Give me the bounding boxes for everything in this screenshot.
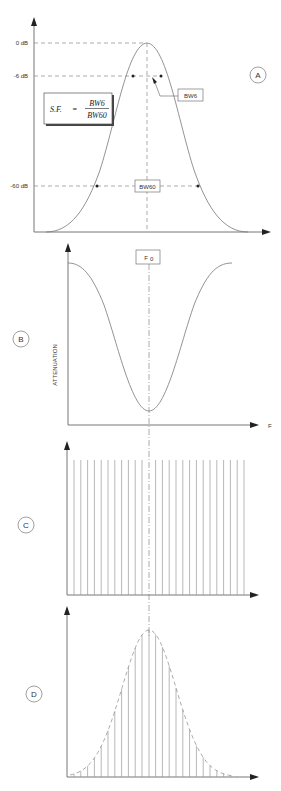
panel-b-y-arrow-icon [65,243,71,252]
panel-c-label: C [23,521,29,530]
formula-numerator: BW6 [89,99,105,108]
panel-d-y-arrow-icon [64,606,70,615]
panel-b-ylabel: ATTENUATION [52,344,58,385]
bw6-label: BW6 [184,93,198,99]
panel-a-tick-60db: -60 dB [10,183,28,189]
panel-d-x-arrow-icon [250,774,259,780]
panel-c-x-arrow-icon [250,592,259,598]
panel-a-label: A [255,71,261,80]
formula-lhs: S.F. [50,105,62,114]
panel-a: 0 dB -6 dB -60 dB BW6 BW60 S.F. = BW6 BW… [10,17,271,235]
panel-c: C [18,441,259,598]
panel-a-y-arrow-icon [31,17,37,26]
panel-d: D [26,606,259,780]
formula-denominator: BW60 [87,111,107,120]
panel-b-label: B [18,335,23,344]
panel-d-weighted-spectral-lines [74,630,244,777]
bw60-label: BW60 [139,184,156,190]
panel-c-spectral-lines [74,460,244,595]
f0-label: F [144,255,148,261]
diagram-canvas: 0 dB -6 dB -60 dB BW6 BW60 S.F. = BW6 BW… [0,0,281,791]
diagram-svg: 0 dB -6 dB -60 dB BW6 BW60 S.F. = BW6 BW… [0,0,281,791]
f0-label-box [136,250,160,264]
panel-c-y-arrow-icon [64,441,70,450]
panel-a-x-arrow-icon [262,229,271,235]
panel-b-attenuation-curve [68,263,232,411]
panel-a-tick-6db: -6 dB [14,73,28,79]
panel-a-tick-0db: 0 dB [16,40,28,46]
panel-d-label: D [31,690,37,699]
bw6-pointer-arrow-icon [152,77,157,84]
panel-b-x-arrow-icon [250,422,259,428]
panel-b-xlabel: F [268,423,272,429]
panel-d-envelope-curve [70,630,232,776]
panel-b: F 0 ATTENUATION F B [13,243,272,638]
formula-equals: = [72,105,77,114]
